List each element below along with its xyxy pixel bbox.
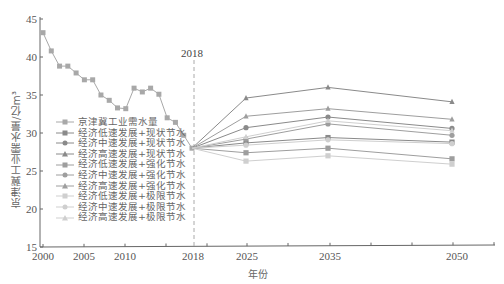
y-tick-label: 30	[26, 127, 38, 139]
chart: 1520253035404520002005201020182025203520…	[0, 0, 504, 284]
legend-swatch-icon	[55, 170, 75, 180]
legend-swatch-icon	[55, 181, 75, 191]
legend-item: 经济高速发展+极限节水	[55, 212, 186, 223]
square-marker-icon	[74, 70, 79, 75]
y-axis-label: 京津冀工业需水量/亿m³	[8, 60, 22, 240]
circle-marker-icon	[325, 137, 330, 142]
x-tick-label: 2018	[182, 250, 205, 262]
legend-swatch-icon	[55, 202, 75, 212]
square-marker-icon	[82, 77, 87, 82]
circle-marker-icon	[243, 143, 248, 148]
y-tick-label: 45	[26, 13, 38, 25]
x-axis	[40, 245, 495, 247]
square-marker-icon	[148, 86, 153, 91]
year-2018-annotation: 2018	[181, 47, 203, 59]
triangle-marker-icon	[325, 106, 330, 111]
x-tick-label: 2025	[236, 250, 259, 262]
legend: 京津冀工业需水量 经济低速发展+现状节水 经济中速发展+现状节水 经济高速发展+…	[55, 117, 186, 223]
square-marker-icon	[449, 162, 454, 167]
square-marker-icon	[325, 146, 330, 151]
square-marker-icon	[243, 159, 248, 164]
square-marker-icon	[90, 77, 95, 82]
circle-marker-icon	[243, 125, 248, 130]
legend-item: 京津冀工业需水量	[55, 117, 186, 128]
square-marker-icon	[156, 92, 161, 97]
square-marker-icon	[243, 150, 248, 155]
square-marker-icon	[49, 48, 54, 53]
x-axis-label: 年份	[248, 266, 268, 281]
circle-marker-icon	[449, 133, 454, 138]
square-marker-icon	[325, 153, 330, 158]
y-tick-label: 25	[26, 165, 38, 177]
legend-swatch-icon	[55, 149, 75, 159]
triangle-marker-icon	[325, 84, 330, 89]
legend-swatch-icon	[55, 191, 75, 201]
legend-swatch-icon	[55, 128, 75, 138]
square-marker-icon	[123, 106, 128, 111]
legend-item: 经济中速发展+强化节水	[55, 170, 186, 181]
square-marker-icon	[65, 64, 70, 69]
square-marker-icon	[132, 86, 137, 91]
legend-swatch-icon	[55, 138, 75, 148]
circle-marker-icon	[449, 141, 454, 146]
y-tick-label: 35	[26, 89, 38, 101]
square-marker-icon	[107, 98, 112, 103]
scenario-line	[192, 148, 452, 164]
x-tick-label: 2035	[319, 250, 342, 262]
square-marker-icon	[449, 156, 454, 161]
square-marker-icon	[115, 105, 120, 110]
x-tick-label: 2000	[32, 250, 55, 262]
x-tick-label: 2005	[73, 250, 96, 262]
legend-swatch-icon	[55, 117, 75, 127]
x-tick-label: 2050	[446, 250, 469, 262]
x-tick-label: 2010	[114, 250, 137, 262]
square-marker-icon	[57, 64, 62, 69]
legend-swatch-icon	[55, 160, 75, 170]
legend-swatch-icon	[55, 213, 75, 223]
y-tick-label: 40	[26, 51, 38, 63]
y-tick-label: 20	[26, 203, 38, 215]
square-marker-icon	[98, 93, 103, 98]
square-marker-icon	[140, 89, 145, 94]
square-marker-icon	[41, 30, 46, 35]
